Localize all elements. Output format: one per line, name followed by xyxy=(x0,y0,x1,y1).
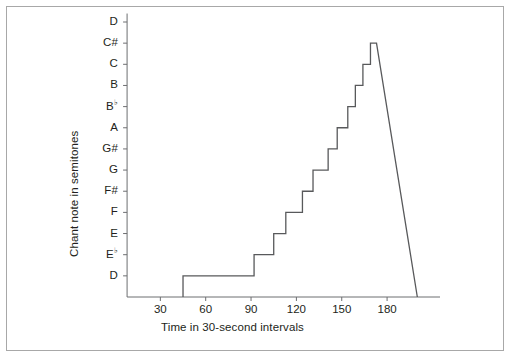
chart-plot-area xyxy=(0,0,512,359)
chart-axes xyxy=(123,14,440,301)
chant-pitch-line xyxy=(183,43,417,297)
